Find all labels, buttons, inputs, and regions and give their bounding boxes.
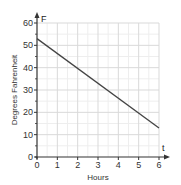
x-axis-arrow-icon xyxy=(164,155,170,160)
axis-ticks: 01020304050600123456 xyxy=(23,18,162,170)
y-axis-arrow-icon xyxy=(35,12,40,18)
x-axis-variable-label: t xyxy=(162,143,165,153)
x-axis-title: Hours xyxy=(87,173,108,182)
y-tick-label: 60 xyxy=(23,18,33,28)
y-axis-variable-label: F xyxy=(41,14,47,24)
y-tick-label: 30 xyxy=(23,85,33,95)
x-tick-label: 3 xyxy=(95,160,100,170)
x-tick-label: 0 xyxy=(34,160,39,170)
y-axis-title: Degrees Fahrenheit xyxy=(10,54,19,125)
y-tick-label: 0 xyxy=(28,152,33,162)
x-tick-label: 2 xyxy=(75,160,80,170)
x-tick-label: 5 xyxy=(136,160,141,170)
x-tick-label: 4 xyxy=(116,160,121,170)
line-chart: 01020304050600123456 F t Hours Degrees F… xyxy=(0,0,181,185)
y-tick-label: 20 xyxy=(23,107,33,117)
y-tick-label: 10 xyxy=(23,130,33,140)
x-tick-label: 6 xyxy=(156,160,161,170)
y-tick-label: 40 xyxy=(23,63,33,73)
x-tick-label: 1 xyxy=(55,160,60,170)
y-tick-label: 50 xyxy=(23,40,33,50)
major-gridlines xyxy=(37,23,159,157)
